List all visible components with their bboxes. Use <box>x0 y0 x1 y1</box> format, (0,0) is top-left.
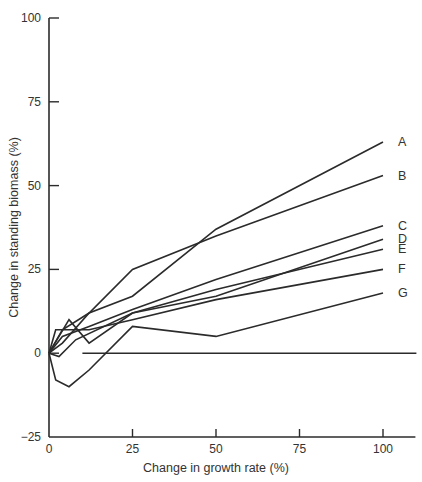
series-label-g: G <box>398 286 408 300</box>
y-axis-title: Change in standing biomass (%) <box>7 137 21 318</box>
series-line-a <box>49 142 383 353</box>
series-line-g <box>49 293 383 387</box>
series-label-b: B <box>398 169 406 183</box>
series-label-a: A <box>398 135 407 149</box>
x-tick-label: 25 <box>126 442 140 456</box>
y-tick-label: 75 <box>28 95 42 109</box>
axes <box>49 18 415 437</box>
series-line-d <box>49 239 383 356</box>
series-line-b <box>49 176 383 354</box>
x-tick-label: 50 <box>209 442 223 456</box>
series-group <box>49 142 383 387</box>
x-axis-title: Change in growth rate (%) <box>143 461 289 475</box>
series-label-f: F <box>398 262 406 276</box>
y-tick-label: 50 <box>28 179 42 193</box>
series-line-e <box>49 249 383 353</box>
y-ticks: −250255075100 <box>21 11 59 444</box>
x-tick-label: 75 <box>293 442 307 456</box>
series-label-c: C <box>398 219 407 233</box>
y-tick-label: 25 <box>28 262 42 276</box>
y-tick-label: 0 <box>34 346 41 360</box>
x-ticks: 0255075100 <box>46 429 394 456</box>
series-labels: ABCDEFG <box>398 135 408 300</box>
y-tick-label: 100 <box>21 11 41 25</box>
line-chart: −250255075100 0255075100 ABCDEFG Change … <box>0 0 422 482</box>
x-tick-label: 100 <box>373 442 393 456</box>
y-tick-label: −25 <box>21 430 42 444</box>
series-line-f <box>49 269 383 353</box>
series-label-e: E <box>398 242 406 256</box>
x-tick-label: 0 <box>46 442 53 456</box>
